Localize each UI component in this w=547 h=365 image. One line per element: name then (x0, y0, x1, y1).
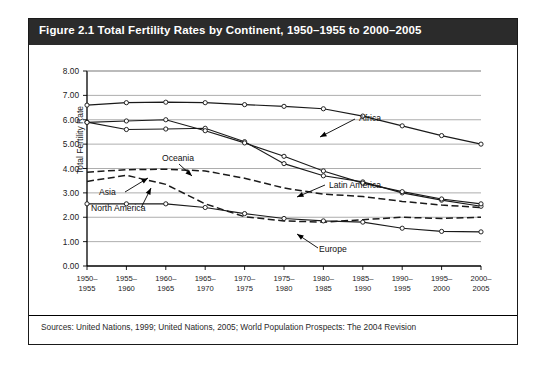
fertility-line-chart: 0.001.002.003.004.005.006.007.008.001950… (29, 45, 519, 315)
y-tick-label: 2.00 (63, 212, 80, 222)
data-point-europe (440, 229, 444, 233)
annotation-north-america-arrowhead (146, 188, 151, 195)
source-note: Sources: United Nations, 1999; United Na… (41, 322, 416, 332)
x-tick-label: 1985 (315, 284, 332, 293)
data-point-asia (124, 127, 128, 131)
data-point-africa (282, 104, 286, 108)
x-tick-label: 1970– (234, 274, 256, 283)
x-tick-label: 1990– (392, 274, 414, 283)
figure-title-bar: Figure 2.1 Total Fertility Rates by Cont… (29, 19, 517, 45)
data-point-latin-america (164, 118, 168, 122)
data-point-latin-america (124, 119, 128, 123)
x-tick-label: 2005 (473, 284, 490, 293)
data-point-latin-america (440, 197, 444, 201)
x-tick-label: 1960– (155, 274, 177, 283)
annotation-europe-arrowhead (297, 234, 304, 240)
data-point-latin-america (85, 120, 89, 124)
x-tick-label: 1980 (276, 284, 293, 293)
data-point-africa (440, 133, 444, 137)
data-point-latin-america (243, 141, 247, 145)
data-point-europe (203, 205, 207, 209)
data-point-europe (243, 211, 247, 215)
data-point-africa (124, 101, 128, 105)
data-point-africa (164, 100, 168, 104)
x-tick-label: 1995 (394, 284, 411, 293)
annotation-europe-label: Europe (319, 244, 347, 254)
data-point-europe (85, 202, 89, 206)
annotation-north-america-label: North America (91, 203, 146, 213)
y-tick-label: 1.00 (63, 237, 80, 247)
data-point-latin-america (203, 129, 207, 133)
x-tick-label: 1955– (116, 274, 138, 283)
data-point-africa (85, 103, 89, 107)
x-tick-label: 1980– (313, 274, 335, 283)
source-divider (29, 315, 517, 316)
x-tick-label: 2000 (433, 284, 450, 293)
series-line-oceania (87, 169, 481, 207)
x-tick-label: 1990 (354, 284, 371, 293)
data-point-latin-america (282, 154, 286, 158)
page-title: Figure 2.1 Total Fertility Rates by Cont… (39, 24, 422, 36)
data-point-africa (203, 101, 207, 105)
data-point-latin-america (321, 169, 325, 173)
data-point-europe (361, 220, 365, 224)
annotation-asia-label: Asia (99, 187, 116, 197)
x-tick-label: 1975– (273, 274, 295, 283)
data-point-africa (321, 107, 325, 111)
x-tick-label: 1960 (118, 284, 135, 293)
x-tick-label: 1965– (195, 274, 217, 283)
data-point-latin-america (400, 190, 404, 194)
data-point-europe (164, 202, 168, 206)
y-tick-label: 8.00 (63, 66, 80, 76)
x-tick-label: 1970 (197, 284, 214, 293)
data-point-africa (243, 103, 247, 107)
x-tick-label: 1950– (76, 274, 98, 283)
x-tick-label: 1975 (236, 284, 253, 293)
x-tick-label: 1955 (79, 284, 96, 293)
y-axis-label: Total Fertility Rate (75, 85, 85, 195)
x-tick-label: 1995– (431, 274, 453, 283)
data-point-asia (164, 127, 168, 131)
x-tick-label: 1985– (352, 274, 374, 283)
annotation-latin-america-label: Latin America (329, 180, 381, 190)
data-point-asia (282, 162, 286, 166)
data-point-africa (479, 142, 483, 146)
y-tick-label: 0.00 (63, 261, 80, 271)
data-point-africa (400, 124, 404, 128)
data-point-europe (479, 230, 483, 234)
annotation-africa-arrowhead (320, 132, 327, 137)
data-point-asia (321, 174, 325, 178)
chart-plot-region: Total Fertility Rate 0.001.002.003.004.0… (29, 45, 519, 315)
x-tick-label: 1965 (157, 284, 174, 293)
x-tick-label: 2000– (470, 274, 492, 283)
data-point-europe (321, 219, 325, 223)
figure-container: Figure 2.1 Total Fertility Rates by Cont… (28, 18, 518, 345)
data-point-europe (282, 216, 286, 220)
annotation-africa-label: Africa (359, 113, 381, 123)
annotation-oceania-label: Oceania (162, 153, 194, 163)
data-point-latin-america (479, 202, 483, 206)
data-point-europe (400, 226, 404, 230)
